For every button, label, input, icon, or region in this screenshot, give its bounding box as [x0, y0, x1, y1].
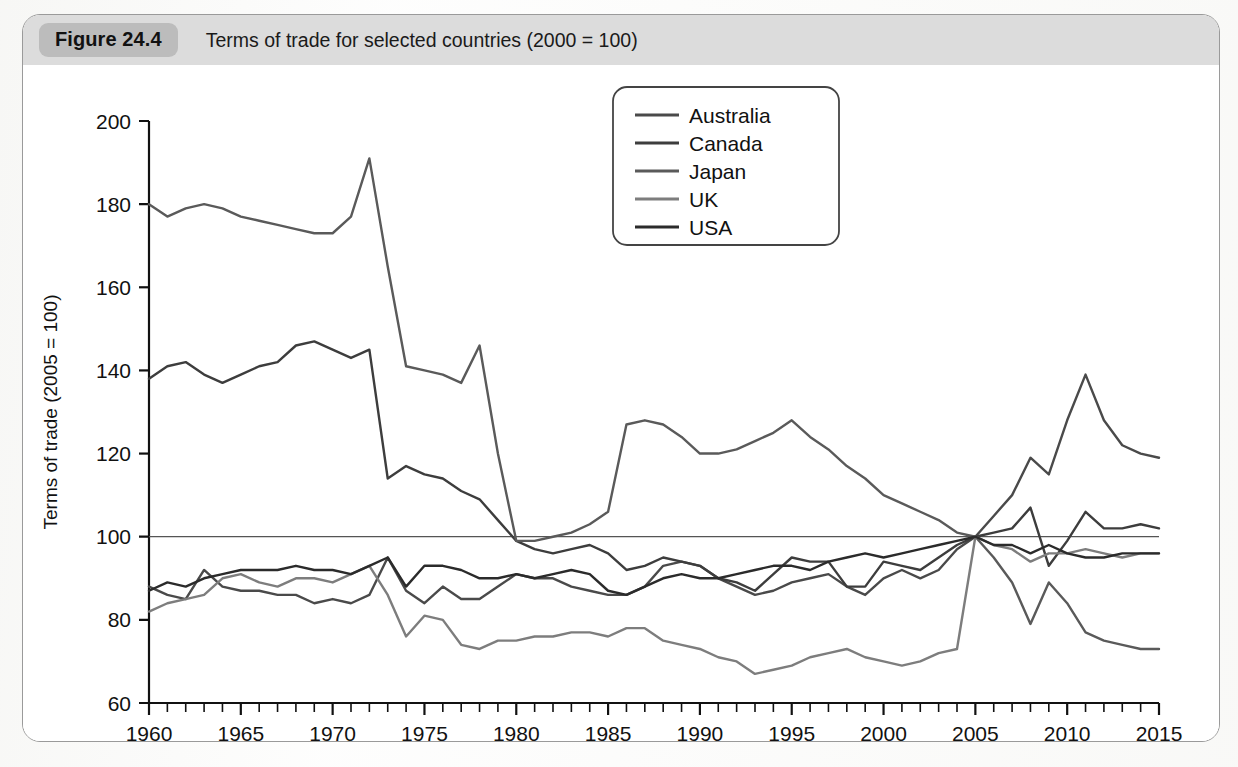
x-tick-label: 1965	[217, 722, 264, 742]
x-tick-label: 2000	[860, 722, 907, 742]
line-chart: 6080100120140160180200196019651970197519…	[23, 65, 1220, 742]
x-tick-label: 2015	[1136, 722, 1183, 742]
figure-frame: Figure 24.4 Terms of trade for selected …	[22, 14, 1220, 742]
legend-label-usa: USA	[689, 216, 732, 239]
y-axis-title: Terms of trade (2005 = 100)	[40, 295, 61, 530]
y-axis-title-text: Terms of trade (2005 = 100)	[40, 295, 61, 530]
legend-label-canada: Canada	[689, 132, 763, 155]
figure-caption: Terms of trade for selected countries (2…	[206, 29, 638, 52]
x-tick-label: 1970	[309, 722, 356, 742]
series-line-uk	[149, 537, 1159, 674]
x-tick-label: 2010	[1044, 722, 1091, 742]
series-line-canada	[149, 341, 1159, 590]
legend-label-australia: Australia	[689, 104, 771, 127]
figure-footnote	[26, 752, 726, 766]
figure-number-badge: Figure 24.4	[39, 23, 178, 57]
x-tick-label: 1980	[493, 722, 540, 742]
legend-label-japan: Japan	[689, 160, 746, 183]
chart-legend: AustraliaCanadaJapanUKUSA	[613, 87, 839, 245]
y-tick-label: 60	[108, 692, 131, 715]
x-tick-label: 1960	[126, 722, 173, 742]
figure-header-band: Figure 24.4 Terms of trade for selected …	[23, 15, 1219, 65]
x-tick-label: 1985	[585, 722, 632, 742]
x-tick-label: 1990	[677, 722, 724, 742]
y-tick-label: 80	[108, 608, 131, 631]
x-tick-label: 1995	[768, 722, 815, 742]
series-line-australia	[149, 375, 1159, 604]
y-tick-label: 140	[96, 359, 131, 382]
y-tick-label: 100	[96, 525, 131, 548]
legend-label-uk: UK	[689, 188, 718, 211]
chart-area: 6080100120140160180200196019651970197519…	[23, 65, 1220, 742]
series-line-usa	[149, 537, 1159, 595]
y-tick-label: 200	[96, 110, 131, 133]
x-tick-label: 2005	[952, 722, 999, 742]
y-tick-label: 180	[96, 193, 131, 216]
y-tick-label: 120	[96, 442, 131, 465]
y-tick-label: 160	[96, 276, 131, 299]
x-tick-label: 1975	[401, 722, 448, 742]
